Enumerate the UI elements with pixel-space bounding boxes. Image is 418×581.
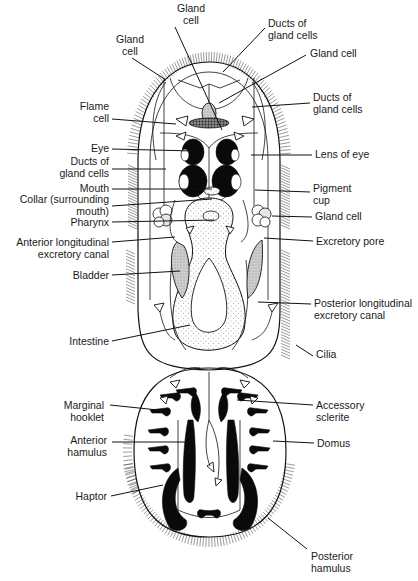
leader-line-marginal-hooklet [110, 405, 158, 410]
granular-gland-mass [189, 118, 229, 128]
leader-line-anterior-longitudinal-excretory-canal [112, 237, 175, 242]
marginal-hooklet-10 [248, 464, 269, 472]
label-anterior-longitudinal-excretory-canal: Anterior longitudinalexcretory canal [16, 236, 109, 260]
label-ducts-of-gland-cells-right: Ducts ofgland cells [313, 91, 363, 115]
label-lens-of-eye: Lens of eye [315, 148, 369, 160]
marginal-hooklet-3 [148, 446, 169, 454]
label-posterior-hamulus: Posteriorhamulus [311, 550, 354, 574]
label-marginal-hooklet: Marginalhooklet [64, 399, 104, 423]
label-posterior-longitudinal-excretory-canal: Posterior longitudinalexcretory canal [314, 297, 412, 321]
label-collar: Collar (surroundingmouth) [20, 193, 109, 217]
haptor-flame-cell-5 [207, 462, 214, 472]
label-gland-cell-upper-left: Glandcell [116, 33, 144, 57]
leader-line-bladder [112, 271, 180, 275]
label-accessory-sclerite: Accessorysclerite [316, 399, 365, 423]
label-cilia: Cilia [316, 348, 337, 360]
label-haptor: Haptor [75, 490, 107, 502]
anterior-hamulus-left [183, 420, 195, 503]
leader-line-gland-cell-right [272, 216, 312, 217]
label-ducts-of-gland-cells-top: Ducts ofgland cells [268, 17, 318, 41]
label-excretory-pore: Excretory pore [316, 235, 384, 247]
leader-line-domus [273, 441, 314, 443]
marginal-hooklet-2 [148, 428, 169, 436]
monogenean-anatomy-diagram: GlandcellGlandcellFlamecellEyeDucts ofgl… [0, 0, 418, 581]
leader-line-ducts-of-gland-cells-right [252, 103, 310, 107]
leader-line-gland-cell-upper-left [132, 58, 166, 80]
leader-line-gland-cell-top [175, 27, 222, 130]
leader-line-excretory-pore [264, 238, 313, 241]
marginal-hooklet-7 [248, 408, 269, 416]
haptor [134, 367, 286, 537]
flame-cell-left-2 [176, 132, 186, 140]
label-gland-cell-top: Glandcell [177, 2, 205, 26]
anterior-hamulus-right [227, 420, 239, 503]
leader-line-ducts-of-gland-cells-top [223, 28, 265, 72]
label-domus: Domus [317, 437, 350, 449]
label-gland-cell-right: Gland cell [315, 210, 362, 222]
label-eye: Eye [91, 142, 109, 154]
marginal-hooklet-9 [250, 446, 271, 454]
label-intestine: Intestine [69, 335, 109, 347]
label-ducts-of-gland-cells-left: Ducts ofgland cells [59, 155, 109, 179]
leader-line-posterior-longitudinal-excretory-canal [258, 302, 311, 304]
pharynx [203, 211, 219, 221]
haptor-flame-cell-6 [215, 478, 222, 486]
label-gland-cell-upper-right: Gland cell [310, 47, 357, 59]
body [138, 62, 280, 370]
marginal-hooklet-8 [250, 428, 271, 436]
bladder-left [171, 242, 189, 298]
marginal-hooklet-1 [150, 408, 171, 416]
gland-cell-cluster-left [153, 205, 172, 227]
haptor-flame-cell-2 [240, 380, 250, 388]
haptor-flame-cell-1 [170, 380, 180, 388]
leader-line-cilia [296, 345, 313, 356]
label-pigment-cup: Pigmentcup [313, 182, 352, 206]
label-bladder: Bladder [73, 269, 110, 281]
flame-cell-right-4 [268, 303, 278, 312]
flame-cell-left-4 [154, 303, 164, 312]
flame-cell-left-1 [176, 116, 188, 126]
label-flame-cell: Flamecell [80, 100, 109, 124]
bladder-right [247, 240, 263, 298]
label-anterior-hamulus: Anteriorhamulus [67, 434, 107, 458]
mouth [204, 187, 220, 195]
marginal-hooklet-4 [150, 464, 171, 472]
accessory-sclerite-right [219, 392, 228, 422]
flame-cell-right-1 [242, 116, 254, 126]
leader-line-posterior-hamulus [268, 518, 307, 549]
leader-line-flame-cell [112, 119, 176, 124]
leader-line-eye [112, 149, 194, 151]
label-pharynx: Pharynx [70, 216, 109, 228]
accessory-sclerite-left [191, 392, 200, 422]
